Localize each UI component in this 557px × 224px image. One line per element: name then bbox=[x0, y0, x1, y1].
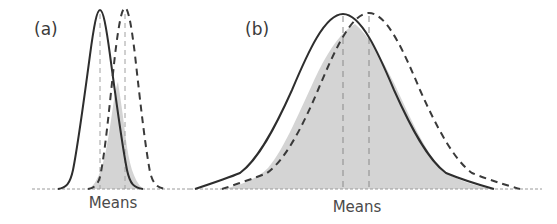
panel-a-label: (a) bbox=[34, 19, 58, 39]
panel-a-xlabel: Means bbox=[89, 194, 138, 212]
panel-b-xlabel: Means bbox=[333, 198, 382, 216]
panel-a: (a) Means bbox=[32, 8, 190, 212]
panel-b-overlap-area bbox=[222, 24, 494, 189]
panel-b: (b) Means bbox=[190, 13, 542, 216]
panel-b-label: (b) bbox=[245, 19, 269, 39]
distribution-overlap-figure: (a) Means (b) Means bbox=[0, 0, 557, 224]
